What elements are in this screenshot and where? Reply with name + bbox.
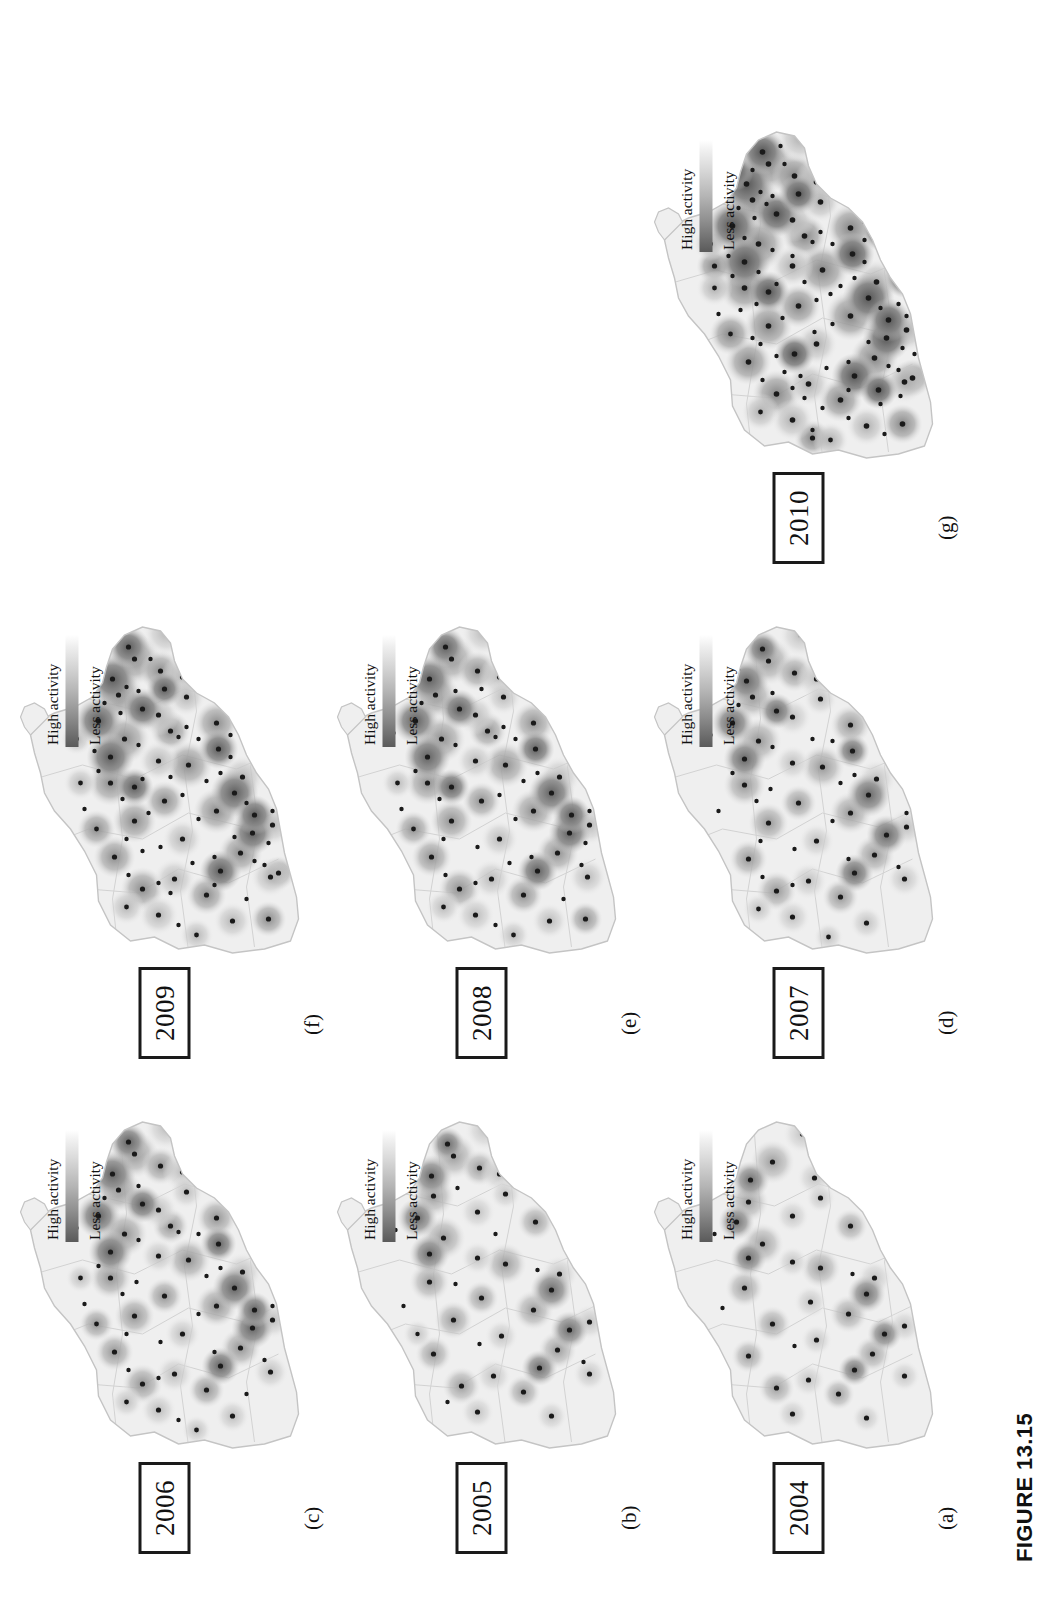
- map-panel-2009[interactable]: 2009: [18, 595, 318, 1065]
- map-panel-2004[interactable]: 2004: [652, 1090, 952, 1560]
- legend-gradient-bar: [699, 1130, 712, 1242]
- legend-2005: High activity Less activity: [359, 1124, 433, 1242]
- legend-less-label: Less activity: [720, 1161, 736, 1240]
- year-label: 2005: [468, 1480, 495, 1536]
- figure-caption: FIGURE 13.15: [1011, 1413, 1037, 1562]
- year-label: 2009: [151, 985, 178, 1041]
- year-box-2008: 2008: [455, 967, 507, 1059]
- legend-less-label: Less activity: [720, 171, 736, 250]
- map-panel-2008[interactable]: 2008: [335, 595, 635, 1065]
- legend-less-label: Less activity: [403, 666, 419, 745]
- year-label: 2007: [785, 985, 812, 1041]
- year-box-2009: 2009: [138, 967, 190, 1059]
- legend-gradient-bar: [65, 635, 78, 747]
- legend-2007: High activity Less activity: [676, 629, 750, 747]
- legend-gradient-bar: [382, 1130, 395, 1242]
- map-panel-2005[interactable]: 2005: [335, 1090, 635, 1560]
- panel-letter-e: (e): [616, 1012, 641, 1035]
- year-box-2004: 2004: [772, 1462, 824, 1554]
- legend-2010: High activity Less activity: [676, 134, 750, 252]
- map-panel-2006[interactable]: 2006: [18, 1090, 318, 1560]
- legend-2006: High activity Less activity: [42, 1124, 116, 1242]
- map-panel-2007[interactable]: 2007: [652, 595, 952, 1065]
- legend-gradient-bar: [382, 635, 395, 747]
- legend-2009: High activity Less activity: [42, 629, 116, 747]
- legend-less-label: Less activity: [86, 1161, 102, 1240]
- year-box-2005: 2005: [455, 1462, 507, 1554]
- legend-high-label: High activity: [678, 1159, 694, 1240]
- panel-letter-d: (d): [933, 1011, 958, 1036]
- legend-high-label: High activity: [44, 1159, 60, 1240]
- legend-high-label: High activity: [678, 664, 694, 745]
- year-label: 2010: [785, 490, 812, 546]
- legend-high-label: High activity: [44, 664, 60, 745]
- legend-less-label: Less activity: [403, 1161, 419, 1240]
- map-panel-2010[interactable]: 2010: [652, 100, 952, 570]
- figure-page: 2004: [0, 0, 1053, 1598]
- legend-high-label: High activity: [361, 664, 377, 745]
- legend-high-label: High activity: [678, 169, 694, 250]
- panel-letter-a: (a): [933, 1507, 958, 1530]
- legend-gradient-bar: [65, 1130, 78, 1242]
- rotated-page-container: 2004: [0, 0, 1053, 1598]
- year-box-2007: 2007: [772, 967, 824, 1059]
- panel-letter-c: (c): [299, 1507, 324, 1530]
- year-label: 2006: [151, 1480, 178, 1536]
- panel-letter-g: (g): [933, 516, 958, 541]
- legend-2004: High activity Less activity: [676, 1124, 750, 1242]
- panel-letter-f: (f): [299, 1014, 324, 1035]
- legend-less-label: Less activity: [86, 666, 102, 745]
- legend-high-label: High activity: [361, 1159, 377, 1240]
- year-label: 2004: [785, 1480, 812, 1536]
- year-box-2006: 2006: [138, 1462, 190, 1554]
- year-box-2010: 2010: [772, 472, 824, 564]
- legend-gradient-bar: [699, 140, 712, 252]
- legend-2008: High activity Less activity: [359, 629, 433, 747]
- panel-grid: 2004: [10, 70, 970, 1570]
- legend-less-label: Less activity: [720, 666, 736, 745]
- year-label: 2008: [468, 985, 495, 1041]
- panel-letter-b: (b): [616, 1506, 641, 1531]
- legend-gradient-bar: [699, 635, 712, 747]
